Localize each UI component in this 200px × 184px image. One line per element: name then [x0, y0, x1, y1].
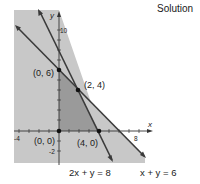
tick-label-x-neg4: -4	[14, 135, 20, 142]
point-label-0-6: (0, 6)	[33, 68, 54, 78]
point-label-2-4: (2, 4)	[84, 80, 105, 90]
point-0-6	[57, 68, 62, 73]
equation-label-x-plus-y-eq-6: x + y = 6	[140, 167, 176, 178]
point-label-0-0: (0, 0)	[34, 136, 55, 146]
point-4-0	[97, 129, 102, 134]
x-axis-arrow-icon	[147, 129, 153, 133]
x-axis-label: x	[147, 120, 153, 129]
point-0-0	[57, 129, 62, 134]
linear-inequality-graph: y x -4 8 10 -2 (0, 6) (2, 4) (0, 0) (4, …	[0, 0, 200, 184]
tick-label-y-10: 10	[60, 27, 68, 34]
tick-label-y-neg2: -2	[49, 148, 55, 155]
tick-label-x-8: 8	[134, 135, 138, 142]
point-label-4-0: (4, 0)	[77, 138, 98, 148]
point-2-4	[76, 88, 81, 93]
equation-label-2x-plus-y-eq-8: 2x + y = 8	[69, 167, 111, 178]
